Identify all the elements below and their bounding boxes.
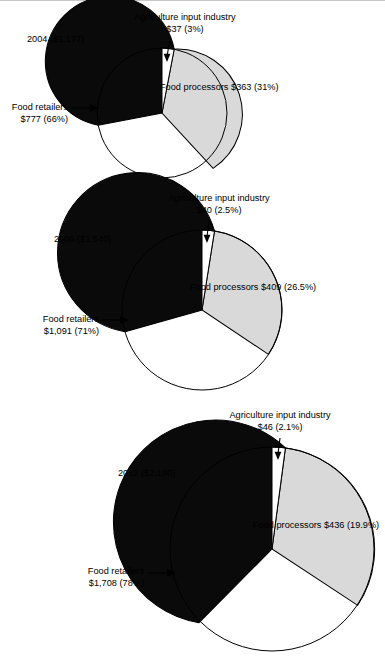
chart-2012-processors-value: $436 (19.9%) <box>324 520 379 530</box>
chart-2004-total: ($1,177) <box>50 34 84 44</box>
chart-2004-agriculture-value: $37 (3%) <box>110 24 260 36</box>
chart-2004-processors-label: Food processors $363 (31%) <box>160 82 242 93</box>
chart-2004-year-label: 2004 ($1,177) <box>27 33 84 45</box>
chart-2006-retailers-value: $1,091 (71%) <box>0 326 99 338</box>
chart-2004-retailers-label: Food retailers $777 (66%) <box>0 102 68 125</box>
chart-2004-year: 2004 <box>27 34 47 44</box>
chart-2012-agriculture-label: Agriculture input industry $46 (2.1%) <box>204 410 356 433</box>
chart-2006-agriculture-value: $40 (2.5%) <box>143 205 295 217</box>
chart-2006-agriculture-label: Agriculture input industry $40 (2.5%) <box>143 193 295 216</box>
chart-2012-year: 2012 <box>118 468 138 478</box>
chart-2012-processors-label: Food processors $436 (19.9%) <box>253 520 351 531</box>
chart-2012-year-label: 2012 ($2,190) <box>118 467 175 479</box>
chart-2012-total: ($2,190) <box>141 468 175 478</box>
chart-2006-processors-name: Food processors <box>190 282 258 292</box>
chart-2004-agriculture-label: Agriculture input industry $37 (3%) <box>110 12 260 35</box>
chart-2006-year-label: 2006 ($1,540) <box>54 233 111 245</box>
chart-2004-processors-name-line1: Food <box>160 82 181 92</box>
chart-2012-agriculture-value: $46 (2.1%) <box>204 422 356 434</box>
chart-2012-retailers-value: $1,708 (78%) <box>44 578 144 590</box>
chart-2004-processors-value: $363 (31%) <box>231 82 279 92</box>
chart-2012-retailers-name: Food retailers <box>44 566 144 578</box>
chart-2004-retailers-value: $777 (66%) <box>0 114 68 126</box>
chart-2012-processors-name: Food processors <box>253 520 321 530</box>
pie-2006-svg <box>0 190 385 405</box>
chart-2006-agriculture-name: Agriculture input industry <box>143 193 295 205</box>
chart-2004-agriculture-name: Agriculture input industry <box>110 12 260 24</box>
chart-2006-retailers-name: Food retailers <box>0 314 99 326</box>
chart-2006-total: ($1,540) <box>77 234 111 244</box>
chart-2006-processors-value: $409 (26.5%) <box>261 282 316 292</box>
chart-2004: 2004 ($1,177) Agriculture input industry… <box>0 0 385 190</box>
pie-chart-figure: 2004 ($1,177) Agriculture input industry… <box>0 0 385 669</box>
chart-2006-year: 2006 <box>54 234 74 244</box>
chart-2012-retailers-label: Food retailers $1,708 (78%) <box>44 566 144 589</box>
chart-2004-processors-name-line2: processors <box>184 82 229 92</box>
chart-2006: 2006 ($1,540) Agriculture input industry… <box>0 190 385 405</box>
chart-2004-retailers-name: Food retailers <box>0 102 68 114</box>
pie-2012-svg <box>0 405 385 669</box>
chart-2006-retailers-label: Food retailers $1,091 (71%) <box>0 314 99 337</box>
chart-2012-agriculture-name: Agriculture input industry <box>204 410 356 422</box>
chart-2012: 2012 ($2,190) Agriculture input industry… <box>0 405 385 669</box>
chart-2006-processors-label: Food processors $409 (26.5%) <box>190 282 286 293</box>
